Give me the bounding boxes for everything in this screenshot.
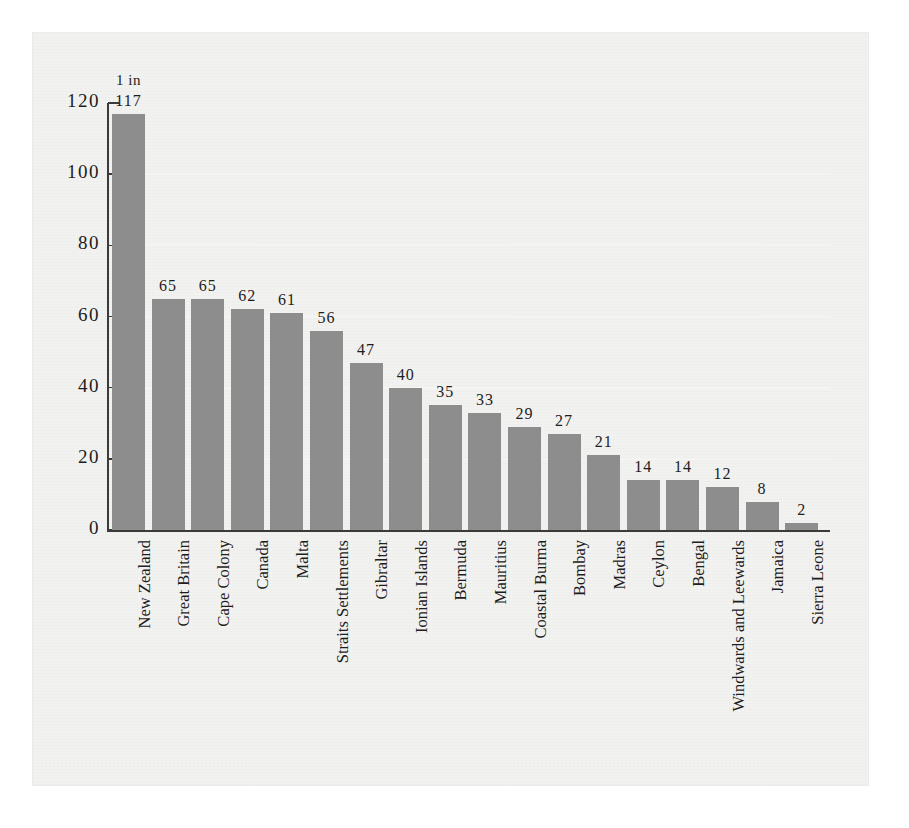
x-axis-category-label: Jamaica — [768, 540, 788, 593]
bar[interactable] — [270, 313, 303, 530]
bar[interactable] — [587, 455, 620, 530]
x-axis-category-label: Cape Colony — [214, 540, 234, 627]
bar-value-label: 21 — [577, 433, 630, 451]
bar[interactable] — [231, 309, 264, 530]
bar-value-label: 40 — [379, 366, 432, 384]
bar[interactable] — [627, 480, 660, 530]
bar-value-label: 56 — [300, 309, 353, 327]
bar-value-label: 47 — [340, 341, 393, 359]
bars-layer: 117New Zealand65Great Britain65Cape Colo… — [0, 0, 909, 828]
bar[interactable] — [666, 480, 699, 530]
x-axis-category-label: Bermuda — [451, 540, 471, 600]
x-axis-category-label: Ionian Islands — [412, 540, 432, 633]
x-axis-category-label: Sierra Leone — [808, 540, 828, 625]
bar[interactable] — [350, 363, 383, 530]
x-axis-category-label: Great Britain — [174, 540, 194, 627]
bar-value-label: 8 — [736, 480, 789, 498]
bar[interactable] — [112, 114, 145, 530]
bar[interactable] — [508, 427, 541, 530]
x-axis-category-label: Bombay — [570, 540, 590, 596]
x-axis-category-label: Mauritius — [491, 540, 511, 604]
x-axis-category-label: Straits Settlements — [333, 540, 353, 663]
chart-page: 1 in 020406080100120 117New Zealand65Gre… — [0, 0, 909, 828]
x-axis-category-label: Bengal — [689, 540, 709, 587]
x-axis-category-label: Madras — [610, 540, 630, 589]
plot-area: 1 in 020406080100120 117New Zealand65Gre… — [0, 0, 909, 828]
bar-value-label: 2 — [775, 501, 828, 519]
x-axis-category-label: New Zealand — [135, 540, 155, 628]
bar[interactable] — [389, 388, 422, 530]
bar[interactable] — [746, 502, 779, 530]
bar[interactable] — [548, 434, 581, 530]
bar[interactable] — [785, 523, 818, 530]
bar[interactable] — [706, 487, 739, 530]
bar-value-label: 117 — [102, 92, 155, 110]
bar-value-label: 27 — [538, 412, 591, 430]
bar[interactable] — [152, 299, 185, 530]
x-axis-category-label: Canada — [253, 540, 273, 589]
bar[interactable] — [468, 413, 501, 530]
x-axis-category-label: Malta — [293, 540, 313, 579]
x-axis-category-label: Coastal Burma — [531, 540, 551, 639]
bar[interactable] — [310, 331, 343, 530]
x-axis-category-label: Gibraltar — [372, 540, 392, 600]
bar[interactable] — [429, 405, 462, 530]
x-axis-category-label: Ceylon — [649, 540, 669, 588]
bar-value-label: 61 — [260, 291, 313, 309]
bar[interactable] — [191, 299, 224, 530]
x-axis-category-label: Windwards and Leewards — [729, 540, 749, 712]
